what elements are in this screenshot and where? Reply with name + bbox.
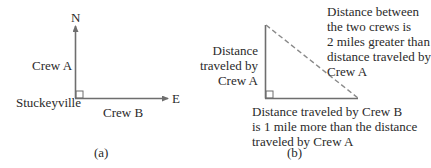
- panel-a-axes: [75, 26, 168, 99]
- origin-label-stuckeyville: Stuckeyville: [16, 95, 81, 110]
- hypotenuse-label: Distance between the two crews is 2 mile…: [327, 4, 431, 79]
- leg-a-line-1: Distance: [190, 43, 258, 58]
- crew-a-label: Crew A: [32, 58, 72, 73]
- right-angle-marker-b: [266, 91, 273, 98]
- hyp-line-2: the two crews is: [327, 19, 431, 34]
- hyp-line-1: Distance between: [327, 4, 431, 19]
- north-label: N: [71, 10, 80, 25]
- leg-b-line-1: Distance traveled by Crew B: [252, 104, 417, 119]
- leg-a-line-2: traveled by: [190, 58, 258, 73]
- crew-b-label: Crew B: [103, 105, 143, 120]
- caption-b: (b): [287, 145, 302, 160]
- hyp-line-5: Crew A: [327, 64, 431, 79]
- leg-b-line-2: is 1 mile more than the distance: [252, 119, 417, 134]
- hyp-line-4: distance traveled by: [327, 49, 431, 64]
- leg-a-line-3: Crew A: [190, 73, 258, 88]
- leg-b-label: Distance traveled by Crew B is 1 mile mo…: [252, 104, 417, 149]
- hyp-line-3: 2 miles greater than: [327, 34, 431, 49]
- caption-a: (a): [94, 145, 108, 160]
- leg-b-line-3: traveled by Crew A: [252, 134, 417, 149]
- leg-a-label: Distance traveled by Crew A: [190, 43, 258, 88]
- east-label: E: [172, 91, 180, 106]
